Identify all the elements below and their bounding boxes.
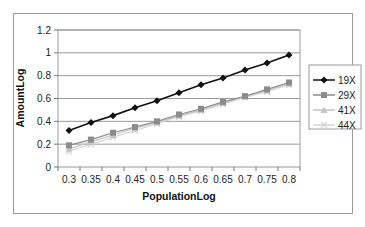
legend-label: 19X xyxy=(338,75,356,86)
x-tick-label: 0.45 xyxy=(125,174,145,185)
y-tick-label: 0.2 xyxy=(37,139,51,150)
x-tick-label: 0.75 xyxy=(257,174,277,185)
legend-label: 44X xyxy=(338,120,356,131)
legend-label: 29X xyxy=(338,90,356,101)
x-axis-title: PopulationLog xyxy=(142,190,216,202)
y-tick-label: 1.2 xyxy=(37,25,51,36)
legend: 19X29X41X44X xyxy=(309,65,361,131)
y-tick-label: 0.6 xyxy=(37,93,51,104)
line-chart: 00.20.40.60.811.2 0.30.350.40.450.50.550… xyxy=(0,0,365,227)
gridlines xyxy=(58,30,300,144)
y-tick-label: 0 xyxy=(45,162,51,173)
legend-label: 41X xyxy=(338,105,356,116)
x-tick-label: 0.6 xyxy=(194,174,208,185)
x-tick-label: 0.65 xyxy=(213,174,233,185)
y-tick-label: 0.8 xyxy=(37,70,51,81)
y-axis-title: AmountLog xyxy=(14,69,26,128)
x-tick-label: 0.35 xyxy=(81,174,101,185)
x-tick-label: 0.7 xyxy=(238,174,252,185)
series-lines xyxy=(66,52,293,154)
x-tick-label: 0.3 xyxy=(62,174,76,185)
x-tick-label: 0.4 xyxy=(106,174,120,185)
x-tick-label: 0.8 xyxy=(282,174,296,185)
x-tick-label: 0.55 xyxy=(169,174,189,185)
y-axis-ticks: 00.20.40.60.811.2 xyxy=(37,25,58,173)
x-axis-ticks: 0.30.350.40.450.50.550.60.650.70.750.8 xyxy=(58,167,300,185)
y-tick-label: 1 xyxy=(45,47,51,58)
y-tick-label: 0.4 xyxy=(37,116,51,127)
x-tick-label: 0.5 xyxy=(150,174,164,185)
